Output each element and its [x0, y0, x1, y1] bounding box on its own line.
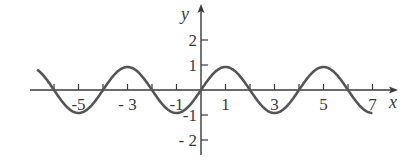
x-axis-label: x	[388, 92, 397, 112]
y-axis-label: y	[179, 4, 189, 24]
axes	[30, 4, 398, 155]
x-tick-label: 5	[319, 95, 328, 114]
y-tick-label: 1	[189, 56, 198, 75]
x-tick-label: 7	[368, 95, 377, 114]
y-tick-label: 2	[189, 31, 198, 50]
x-tick-label: 3	[270, 95, 279, 114]
y-tick-label: - 2	[179, 131, 197, 150]
x-tick-label: 1	[221, 95, 230, 114]
sine-chart: -5- 3-1135721-1- 2 x y	[0, 0, 415, 164]
x-tick-label: - 3	[118, 95, 136, 114]
